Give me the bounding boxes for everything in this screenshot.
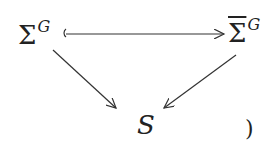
node-sigma-g: ΣG <box>18 22 50 48</box>
arrow-right-to-s <box>164 55 236 108</box>
arrow-left-to-s <box>53 50 116 108</box>
sigma-symbol: Σ <box>18 20 36 50</box>
superscript-g: G <box>37 17 50 36</box>
node-s: S <box>137 110 155 140</box>
superscript-g: G <box>247 15 260 34</box>
sigma-bar-symbol: Σ <box>228 18 246 48</box>
node-sigma-bar-g: ΣG <box>228 20 260 46</box>
closing-parenthesis: ) <box>245 116 254 141</box>
hook-arrow-left-to-right <box>64 29 224 37</box>
